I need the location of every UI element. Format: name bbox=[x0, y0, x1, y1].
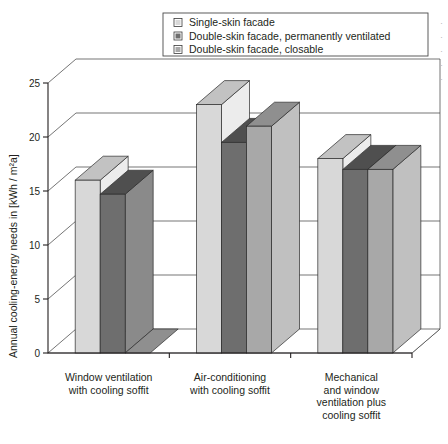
legend-label-1: Single-skin facade bbox=[189, 16, 275, 28]
bar-series-3-group-3 bbox=[368, 145, 421, 353]
y-tick-label-25: 25 bbox=[29, 78, 41, 89]
legend-item-2[interactable]: Double-skin facade, permanently ventilat… bbox=[174, 30, 391, 42]
cooling-energy-bar-chart: Annual cooling-energy needs in [kWh / m²… bbox=[0, 0, 448, 444]
y-tick-label-0: 0 bbox=[34, 348, 40, 359]
y-tick-label-10: 10 bbox=[29, 240, 41, 251]
category-label-1-line-1: Window ventilation bbox=[65, 371, 153, 383]
legend-item-1[interactable]: Single-skin facade bbox=[174, 16, 275, 28]
bar-series-2-group-1 bbox=[100, 170, 153, 353]
category-label-3-line-2: and window bbox=[324, 384, 380, 396]
edge-text-fragment-1: · bbox=[440, 18, 443, 28]
y-tick-label-15: 15 bbox=[29, 186, 41, 197]
edge-text-fragment-5: · bbox=[440, 74, 443, 84]
category-label-3-line-3: ventilation plus bbox=[317, 396, 386, 408]
edge-text-fragment-2: · bbox=[440, 32, 443, 42]
legend-label-3: Double-skin facade, closable bbox=[189, 43, 323, 55]
chart-figure: Annual cooling-energy needs in [kWh / m²… bbox=[0, 0, 448, 444]
chart-legend[interactable]: Single-skin facadeDouble-skin facade, pe… bbox=[163, 13, 428, 56]
cropped-edge-text: ····· bbox=[440, 18, 443, 84]
y-tick-label-5: 5 bbox=[34, 294, 40, 305]
legend-label-2: Double-skin facade, permanently ventilat… bbox=[189, 30, 391, 42]
y-axis-title: Annual cooling-energy needs in [kWh / m²… bbox=[7, 154, 19, 358]
category-label-2-line-2: with cooling soffit bbox=[189, 384, 270, 396]
bar-series-3-group-2 bbox=[247, 102, 300, 353]
category-label-3-line-4: cooling soffit bbox=[322, 409, 380, 421]
edge-text-fragment-3: · bbox=[440, 46, 443, 56]
category-label-2-line-1: Air-conditioning bbox=[194, 371, 267, 383]
y-tick-label-20: 20 bbox=[29, 132, 41, 143]
edge-text-fragment-4: · bbox=[440, 60, 443, 70]
legend-item-3[interactable]: Double-skin facade, closable bbox=[174, 43, 323, 55]
category-label-1-line-2: with cooling soffit bbox=[68, 384, 149, 396]
category-label-3-line-1: Mechanical bbox=[325, 371, 378, 383]
